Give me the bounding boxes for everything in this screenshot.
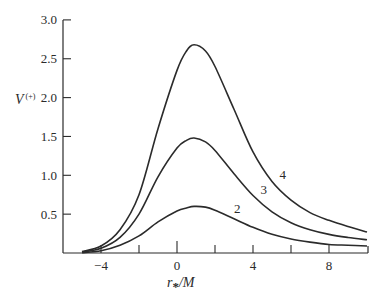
y-tick-label: 3.0 [41,12,57,27]
axes: 0.51.01.52.02.53.0−4048 [41,12,368,273]
y-tick-label: 1.0 [41,168,57,183]
y-tick-label: 0.5 [41,207,57,222]
curves [82,45,367,253]
y-axis-label: V (+) [15,92,36,107]
curve-l-3 [82,138,367,252]
curve-l-4 [82,45,367,252]
curve-label-2: 2 [234,201,241,216]
x-tick-label: −4 [94,258,108,273]
x-tick-label: 8 [326,258,333,273]
y-tick-label: 2.0 [41,90,57,105]
curve-label-4: 4 [280,167,287,182]
y-tick-label: 1.5 [41,129,57,144]
potential-chart: 0.51.01.52.02.53.0−4048 V (+)r*/M432 [0,0,386,294]
curve-l-2 [82,206,367,252]
y-tick-label: 2.5 [41,51,57,66]
curve-label-3: 3 [261,182,268,197]
x-tick-label: 0 [174,258,181,273]
labels: V (+)r*/M432 [15,92,287,294]
x-axis-label: r*/M [167,275,196,294]
x-tick-label: 4 [250,258,257,273]
